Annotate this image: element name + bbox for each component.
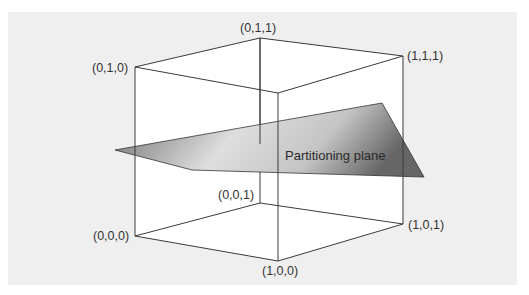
vertex-label-011: (0,1,1) [240,21,276,35]
vertex-label-100: (1,0,0) [262,264,298,278]
vertex-label-101: (1,0,1) [408,218,444,232]
vertex-label-111: (1,1,1) [407,49,443,63]
cube-diagram: Partitioning plane (0,1,0) (0,1,1) (1,1,… [0,0,529,295]
vertex-label-010: (0,1,0) [92,61,128,75]
vertex-label-001: (0,0,1) [218,188,254,202]
vertex-label-000: (0,0,0) [93,229,129,243]
plane-label: Partitioning plane [285,148,385,163]
